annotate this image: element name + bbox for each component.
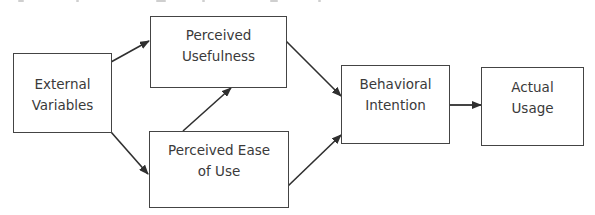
- caption-fragment: [156, 0, 166, 2]
- node-label: Actual: [511, 77, 553, 98]
- node-label: of Use: [198, 161, 241, 182]
- arrow-external-to-ease: [111, 132, 148, 174]
- caption-fragment: [270, 0, 278, 2]
- arrow-usefulness-to-intention: [286, 41, 341, 96]
- caption-fragment: [76, 0, 79, 2]
- caption-fragment: [18, 0, 24, 2]
- node-label: External: [34, 74, 90, 95]
- caption-fragment: [202, 0, 205, 2]
- node-label: Intention: [365, 95, 426, 116]
- node-label: Behavioral: [360, 74, 432, 95]
- caption-fragment: [318, 0, 321, 2]
- node-label: Usefulness: [182, 46, 255, 67]
- arrow-ease-to-usefulness: [183, 88, 231, 131]
- node-label: Variables: [32, 95, 94, 116]
- arrow-external-to-usefulness: [111, 41, 149, 62]
- node-perceived-usefulness: Perceived Usefulness: [150, 16, 287, 88]
- node-actual-usage: Actual Usage: [481, 67, 584, 146]
- cutoff-caption: [0, 0, 595, 4]
- tam-diagram: External Variables Perceived Usefulness …: [0, 0, 595, 215]
- node-behavioral-intention: Behavioral Intention: [341, 65, 450, 144]
- node-external-variables: External Variables: [13, 53, 112, 133]
- node-label: Perceived Ease: [168, 140, 270, 161]
- node-perceived-ease-of-use: Perceived Ease of Use: [149, 131, 289, 208]
- arrow-ease-to-intention: [288, 135, 341, 186]
- node-label: Usage: [511, 98, 553, 119]
- node-label: Perceived: [186, 25, 252, 46]
